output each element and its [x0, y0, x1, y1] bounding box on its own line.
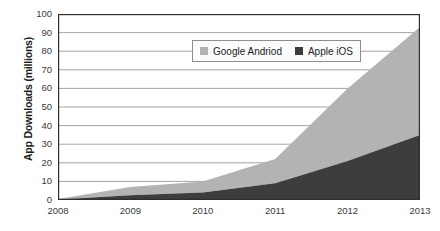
x-tick-label: 2013 — [398, 205, 440, 216]
y-tick-label: 10 — [26, 176, 52, 186]
legend-swatch-icon — [200, 47, 208, 55]
x-tick-label: 2012 — [326, 205, 370, 216]
y-axis-tick-labels: 1009080706050403020100 — [24, 0, 52, 231]
x-tick-label: 2008 — [36, 205, 80, 216]
x-tick-label: 2009 — [108, 205, 152, 216]
legend-item: Google Andriod — [200, 46, 282, 57]
y-tick-label: 60 — [26, 83, 52, 93]
chart-legend: Google AndriodApple iOS — [192, 40, 361, 62]
y-tick-label: 40 — [26, 121, 52, 131]
legend-item: Apple iOS — [295, 46, 353, 57]
y-tick-label: 80 — [26, 46, 52, 56]
x-axis-tick-labels: 200820092010201120122013 — [0, 205, 440, 225]
y-tick-label: 70 — [26, 65, 52, 75]
x-tick-label: 2010 — [181, 205, 225, 216]
y-tick-label: 30 — [26, 139, 52, 149]
legend-label: Apple iOS — [308, 46, 353, 57]
legend-label: Google Andriod — [213, 46, 282, 57]
app-downloads-area-chart: App Downloads (millions) 100908070605040… — [0, 0, 440, 231]
y-tick-label: 100 — [26, 9, 52, 19]
y-tick-label: 90 — [26, 28, 52, 38]
y-tick-label: 50 — [26, 102, 52, 112]
y-tick-label: 20 — [26, 158, 52, 168]
y-tick-label: 0 — [26, 195, 52, 205]
legend-swatch-icon — [295, 47, 303, 55]
x-tick-label: 2011 — [253, 205, 297, 216]
